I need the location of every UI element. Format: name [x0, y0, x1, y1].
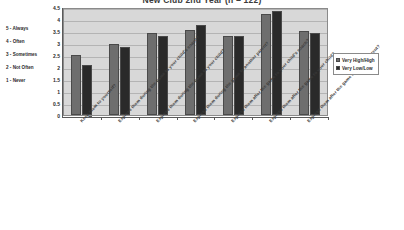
bar [272, 11, 282, 115]
x-axis-tick-mark [252, 117, 253, 120]
bar-group [63, 55, 101, 115]
plot-area [63, 8, 328, 116]
legend-swatch-icon [336, 58, 340, 62]
bar-group [252, 11, 290, 115]
legend-label: Very Low/Low [342, 66, 373, 71]
y-axis-tick-label: 1 [32, 89, 60, 95]
bar [223, 36, 233, 115]
x-axis-tick-mark [290, 117, 291, 120]
bar [82, 65, 92, 115]
y-axis-tick-label: 1.5 [32, 77, 60, 83]
legend-swatch-icon [336, 66, 340, 70]
legend: Very High/High Very Low/Low [333, 53, 379, 75]
x-axis-tick-mark [101, 117, 102, 120]
y-axis-tick-label: 3.5 [32, 29, 60, 35]
bar-group [177, 25, 215, 115]
bar [234, 36, 244, 115]
x-axis-tick-mark [177, 117, 178, 120]
legend-label: Very High/High [342, 58, 375, 63]
bar [261, 14, 271, 115]
legend-item-series-1: Very High/High [336, 56, 375, 64]
y-axis-tick-label: 2 [32, 65, 60, 71]
y-axis-tick-label: 3 [32, 41, 60, 47]
x-axis-tick-mark [139, 117, 140, 120]
bar-group [101, 44, 139, 115]
bar-group [214, 36, 252, 115]
bar [147, 33, 157, 115]
bar [185, 30, 195, 115]
y-axis-tick-label: 4.5 [32, 5, 60, 11]
legend-item-series-2: Very Low/Low [336, 64, 375, 72]
x-axis-tick-mark [214, 117, 215, 120]
chart-root: New Club 2nd Year (n = 122) 5 - Always 4… [0, 0, 404, 230]
bar-group [290, 31, 328, 115]
bar [120, 47, 130, 115]
bar [71, 55, 81, 115]
bar [196, 25, 206, 115]
bar [310, 33, 320, 115]
x-axis-line [62, 117, 329, 118]
y-axis-tick-label: 0.5 [32, 101, 60, 107]
bar-series-container [63, 8, 328, 116]
y-axis-tick-label: 2.5 [32, 53, 60, 59]
bar [299, 31, 309, 115]
bar-group [139, 33, 177, 115]
bar [109, 44, 119, 115]
bar [158, 36, 168, 115]
y-axis-tick-label: 0 [32, 113, 60, 119]
y-axis-tick-label: 4 [32, 17, 60, 23]
y-axis-tick-labels: 00.511.522.533.544.5 [30, 8, 60, 118]
x-axis-tick-mark [328, 117, 329, 120]
chart-title: New Club 2nd Year (n = 122) [0, 0, 404, 5]
